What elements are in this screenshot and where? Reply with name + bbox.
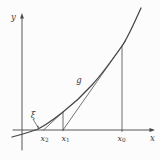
diagram-geometry [12,8,155,150]
root-label: ξ [31,110,37,120]
root-pointer [34,120,38,126]
x1-label-sub: 1 [66,137,70,143]
x2-label: x2 [41,134,50,144]
tangent-line-at-x1 [44,112,64,131]
tangent-line-g [63,41,126,130]
y-axis-arrowhead [20,13,24,19]
x0-label-sub: 0 [122,137,126,143]
diagram-canvas: y x g ξ x2 x1 x0 [0,0,160,160]
y-axis-label: y [10,12,16,22]
tangent-line-label: g [76,75,82,85]
x0-label: x0 [118,134,127,144]
x-axis-label: x [150,133,155,143]
x2-label-sub: 2 [45,137,49,143]
x1-label: x1 [62,134,70,144]
x-axis-arrowhead [150,128,156,132]
newton-method-diagram: y x g ξ x2 x1 x0 [0,0,160,160]
